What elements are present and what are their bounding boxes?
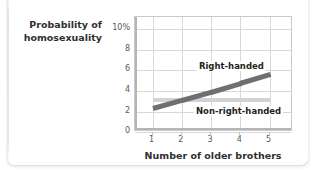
band-right-handed-segment	[240, 72, 272, 86]
gridline-vertical	[153, 17, 154, 130]
x-tick-label: 3	[200, 136, 220, 144]
series-label-non-right-handed: Non-right-handed	[194, 106, 283, 116]
x-tick-label: 4	[229, 136, 249, 144]
y-tick-label: 0	[90, 127, 130, 135]
band-right-handed-segment	[210, 81, 242, 95]
y-tick-label: 2	[90, 107, 130, 115]
gridline-horizontal	[135, 50, 291, 51]
y-tick-label: 8	[90, 45, 130, 53]
chart-figure: Probability of homosexuality 10% 8 6 4 2…	[0, 0, 319, 178]
gridline-horizontal	[135, 132, 291, 133]
x-axis-title: Number of older brothers	[134, 150, 292, 161]
y-tick-label: 4	[90, 86, 130, 94]
x-tick-mark	[210, 132, 211, 136]
x-tick-mark	[181, 132, 182, 136]
gridline-vertical	[182, 17, 183, 130]
x-tick-label: 2	[171, 136, 191, 144]
y-axis-ticklabels: 10% 8 6 4 2 0	[88, 16, 130, 131]
gridline-horizontal	[135, 29, 291, 30]
x-axis-ticklabels: 12345	[134, 136, 292, 146]
x-axis-spine	[135, 128, 291, 130]
y-tick-label: 10%	[90, 24, 130, 32]
x-tick-label: 1	[142, 136, 162, 144]
y-axis-spine	[135, 17, 137, 130]
y-tick-label: 6	[90, 65, 130, 73]
x-tick-mark	[152, 132, 153, 136]
card-left-edge	[7, 0, 9, 162]
x-tick-mark	[269, 132, 270, 136]
series-label-right-handed: Right-handed	[197, 61, 266, 71]
x-tick-label: 5	[259, 136, 279, 144]
x-tick-mark	[239, 132, 240, 136]
